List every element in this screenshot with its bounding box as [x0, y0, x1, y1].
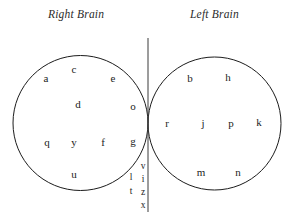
right-brain-letter-d: d [75, 99, 81, 110]
left-brain-letter-n: n [235, 167, 241, 178]
left-brain-letter-h: h [225, 72, 231, 83]
right-brain-letter-q: q [44, 137, 50, 148]
heading-right-brain: Right Brain [48, 8, 104, 20]
left-brain-letter-b: b [187, 73, 193, 84]
right-brain-letter-c: c [72, 64, 77, 75]
midline-left-letter-t: t [130, 187, 133, 197]
right-brain-letter-u: u [71, 169, 77, 180]
midline-right-letter-x: x [141, 201, 146, 211]
midline-right-letter-z: z [141, 188, 145, 198]
left-brain-letter-p: p [228, 118, 234, 129]
right-brain-letter-y: y [71, 137, 77, 148]
right-brain-letter-g: g [130, 136, 136, 147]
midline-right-letter-v: v [141, 162, 146, 172]
left-brain-letter-k: k [256, 117, 262, 128]
midline-left-letter-l: l [130, 173, 133, 183]
brain-venn-diagram: Right Brain Left Brain acedoqyfgu bhrjpk… [0, 0, 290, 218]
left-brain-letter-r: r [165, 118, 169, 129]
left-brain-letter-j: j [201, 118, 204, 129]
right-brain-letter-f: f [101, 137, 105, 148]
heading-left-brain: Left Brain [190, 8, 239, 20]
right-brain-letter-o: o [130, 101, 136, 112]
right-brain-letter-a: a [44, 73, 49, 84]
right-brain-letter-e: e [111, 73, 116, 84]
right-brain-circle [13, 56, 148, 191]
diagram-canvas [0, 0, 290, 218]
midline-right-letter-i: i [142, 175, 145, 185]
left-brain-letter-m: m [197, 167, 206, 178]
